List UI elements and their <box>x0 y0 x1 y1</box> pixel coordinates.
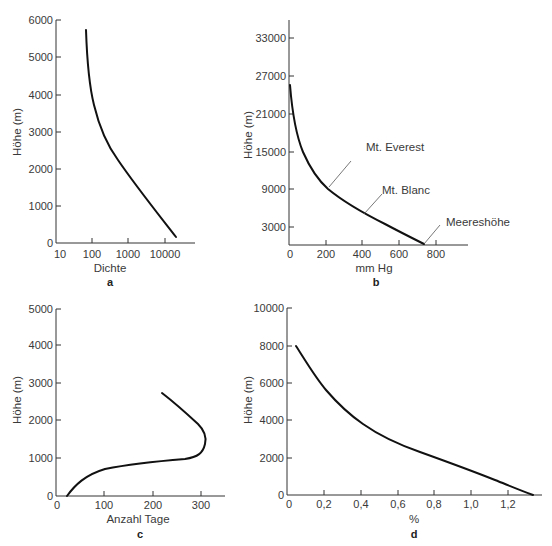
chart-b-ylabel: Höhe (m) <box>242 111 254 159</box>
chart-d-xtick-0: 0 <box>286 498 292 510</box>
chart-a-ytick-0: 0 <box>47 237 53 249</box>
chart-d-panel-label: d <box>411 528 418 540</box>
chart-d-xtick-0-4: 0,4 <box>353 498 368 510</box>
chart-a-ytick-5000: 5000 <box>29 51 53 63</box>
chart-d-ytick-2000: 2000 <box>260 452 284 464</box>
chart-c-curve <box>67 393 206 496</box>
chart-c-ytick-5000: 5000 <box>29 303 53 315</box>
chart-d-xtick-1-2: 1,2 <box>500 498 515 510</box>
chart-b-ytick-3000: 3000 <box>262 221 286 233</box>
chart-d-xtick-0-2: 0,2 <box>316 498 331 510</box>
chart-a-axes <box>56 20 195 243</box>
chart-b-ytick-15000: 15000 <box>255 146 286 158</box>
chart-d-xtick-0-6: 0,6 <box>390 498 405 510</box>
chart-c-xlabel: Anzahl Tage <box>106 513 169 525</box>
chart-c-x-ticks: 0 100 200 300 <box>54 491 210 511</box>
chart-b-xtick-800: 800 <box>427 248 445 260</box>
chart-a-ylabel: Höhe (m) <box>11 108 23 156</box>
chart-a-xtick-10: 10 <box>54 248 66 260</box>
annotation-mt-blanc: Mt. Blanc <box>382 184 430 196</box>
chart-a-curve <box>86 30 176 237</box>
chart-a-panel-label: a <box>107 276 114 288</box>
chart-a-xtick-10000: 10000 <box>150 248 181 260</box>
figure-canvas: 0 1000 2000 3000 4000 5000 6000 10 100 1… <box>0 0 552 546</box>
chart-d-ytick-4000: 4000 <box>260 414 284 426</box>
chart-c-ytick-1000: 1000 <box>29 452 53 464</box>
sea-leader-line <box>424 225 440 244</box>
chart-d-ylabel: Höhe (m) <box>242 376 254 424</box>
chart-a-ytick-1000: 1000 <box>29 200 53 212</box>
chart-c-xtick-200: 200 <box>144 499 162 511</box>
chart-c-ylabel: Höhe (m) <box>11 376 23 424</box>
chart-d-axes <box>287 308 542 495</box>
chart-d-xlabel: % <box>409 513 419 525</box>
chart-b-y-ticks: 3000 9000 15000 21000 27000 33000 <box>255 32 294 233</box>
chart-a: 0 1000 2000 3000 4000 5000 6000 10 100 1… <box>11 14 195 288</box>
chart-d-x-ticks: 0 0,2 0,4 0,6 0,8 1,0 1,2 <box>286 490 516 510</box>
chart-c-ytick-0: 0 <box>47 490 53 502</box>
chart-a-ytick-2000: 2000 <box>29 163 53 175</box>
chart-b-xtick-400: 400 <box>353 248 371 260</box>
chart-b-axes <box>289 20 468 245</box>
chart-b-xtick-0: 0 <box>287 248 293 260</box>
chart-d-xtick-0-8: 0,8 <box>426 498 441 510</box>
chart-d-y-ticks: 0 2000 4000 6000 8000 10000 <box>253 302 292 501</box>
chart-d-ytick-0: 0 <box>278 489 284 501</box>
annotation-mt-everest: Mt. Everest <box>366 141 425 153</box>
chart-c-ytick-4000: 4000 <box>29 339 53 351</box>
chart-c-panel-label: c <box>137 528 143 540</box>
chart-d-ytick-8000: 8000 <box>260 340 284 352</box>
chart-c-xtick-100: 100 <box>95 499 113 511</box>
blanc-leader-line <box>364 194 382 214</box>
chart-a-xlabel: Dichte <box>94 262 127 274</box>
chart-a-ytick-6000: 6000 <box>29 14 53 26</box>
chart-d-xtick-1-0: 1,0 <box>463 498 478 510</box>
chart-a-ytick-3000: 3000 <box>29 126 53 138</box>
chart-c-ytick-3000: 3000 <box>29 377 53 389</box>
chart-d-ytick-6000: 6000 <box>260 377 284 389</box>
chart-c-ytick-2000: 2000 <box>29 414 53 426</box>
chart-a-ytick-4000: 4000 <box>29 89 53 101</box>
chart-b-ytick-21000: 21000 <box>255 108 286 120</box>
chart-b-xtick-200: 200 <box>317 248 335 260</box>
chart-b-ytick-27000: 27000 <box>255 70 286 82</box>
chart-c-xtick-300: 300 <box>192 499 210 511</box>
chart-b-xlabel: mm Hg <box>355 262 392 274</box>
chart-d-ytick-10000: 10000 <box>253 302 284 314</box>
everest-leader-line <box>329 161 351 187</box>
chart-a-x-ticks: 10 100 1000 10000 <box>54 238 180 260</box>
chart-b: 3000 9000 15000 21000 27000 33000 0 200 … <box>242 20 510 288</box>
chart-b-ytick-33000: 33000 <box>255 32 286 44</box>
chart-b-curve <box>290 85 424 244</box>
chart-d-curve <box>296 346 533 495</box>
chart-c-axes <box>56 309 225 496</box>
chart-c: 0 1000 2000 3000 4000 5000 0 100 200 300… <box>11 303 225 540</box>
annotation-meereshoehe: Meereshöhe <box>446 216 510 228</box>
chart-b-xtick-600: 600 <box>390 248 408 260</box>
chart-b-ytick-9000: 9000 <box>262 183 286 195</box>
chart-a-xtick-100: 100 <box>83 248 101 260</box>
chart-b-panel-label: b <box>373 276 380 288</box>
chart-d: 0 2000 4000 6000 8000 10000 0 0,2 0,4 0,… <box>242 302 542 540</box>
chart-a-xtick-1000: 1000 <box>116 248 140 260</box>
chart-c-xtick-0: 0 <box>54 499 60 511</box>
